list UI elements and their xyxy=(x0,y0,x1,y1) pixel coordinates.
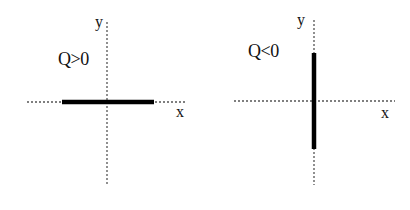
x-axis-label: x xyxy=(176,104,184,120)
diagram-canvas xyxy=(0,0,410,210)
y-axis-label: y xyxy=(297,12,305,28)
condition-label: Q<0 xyxy=(248,42,279,60)
x-axis-label: x xyxy=(381,105,389,121)
condition-label: Q>0 xyxy=(58,50,89,68)
y-axis-label: y xyxy=(95,14,103,30)
panel-q-positive xyxy=(27,22,187,186)
